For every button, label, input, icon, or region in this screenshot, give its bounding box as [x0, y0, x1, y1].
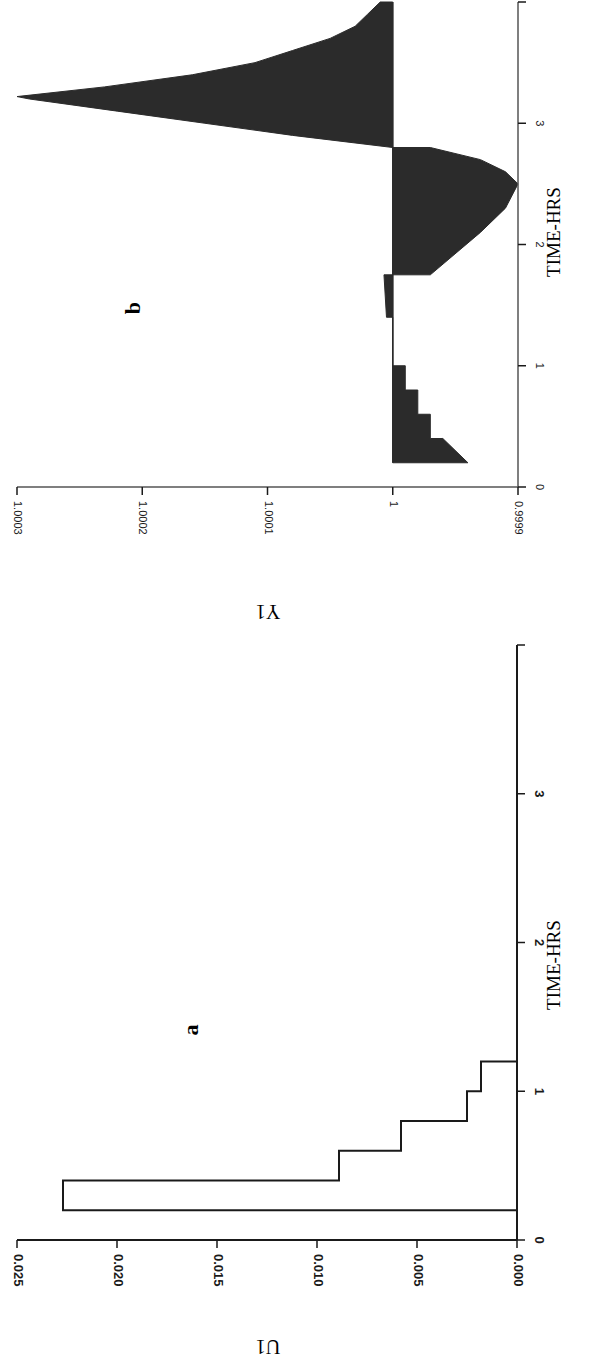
y-tick-label: 1 — [388, 501, 400, 507]
y-tick-label: 0.025 — [11, 1254, 26, 1287]
chart-a-x-label: TIME-HRS — [543, 920, 564, 1010]
chart-b: 0.999911.00011.00021.0003 0123 Y1 TIME-H… — [12, 2, 564, 623]
y-tick-label: 0.020 — [111, 1254, 126, 1287]
chart-a: 0.0000.0050.0100.0150.0200.025 0123 U1 T… — [11, 645, 564, 1358]
chart-b-panel-label: b — [120, 302, 145, 314]
chart-b-x-label: TIME-HRS — [543, 187, 564, 277]
y-tick-label: 0.9999 — [513, 501, 525, 535]
y-tick-label: 1.0003 — [12, 501, 24, 535]
y-tick-label: 1.0002 — [137, 501, 149, 535]
x-tick-label: 1 — [534, 363, 546, 369]
chart-b-y-label: Y1 — [256, 601, 280, 623]
y-tick-label: 0.015 — [211, 1254, 226, 1287]
chart-a-panel-label: a — [178, 1025, 203, 1036]
chart-b-x-ticks: 0123 — [518, 2, 546, 490]
chart-a-histogram — [63, 1062, 517, 1211]
figure-canvas: 0.0000.0050.0100.0150.0200.025 0123 U1 T… — [0, 0, 601, 1361]
y-tick-label: 0.010 — [311, 1254, 326, 1287]
y-tick-label: 0.005 — [411, 1254, 426, 1287]
x-tick-label: 0 — [532, 1236, 547, 1243]
y-tick-label: 0.000 — [511, 1254, 526, 1287]
chart-a-y-label: U1 — [256, 1336, 280, 1358]
x-tick-label: 1 — [532, 1088, 547, 1095]
chart-b-filled-area — [17, 2, 518, 463]
figure: 0.0000.0050.0100.0150.0200.025 0123 U1 T… — [0, 0, 601, 1361]
x-tick-label: 3 — [532, 790, 547, 797]
y-tick-label: 1.0001 — [263, 501, 275, 535]
x-tick-label: 3 — [534, 120, 546, 126]
x-tick-label: 0 — [534, 484, 546, 490]
chart-a-y-ticks: 0.0000.0050.0100.0150.0200.025 — [11, 1240, 526, 1287]
chart-b-y-ticks: 0.999911.00011.00021.0003 — [12, 487, 525, 535]
